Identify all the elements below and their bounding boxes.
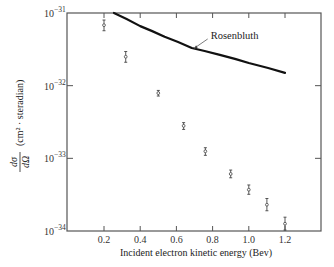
y-tick-exponent: −31: [54, 5, 66, 14]
y-axis: 10−3410−3310−3210−31: [44, 5, 321, 237]
rosenbluth-line: [114, 13, 285, 73]
y-tick-exponent: −33: [54, 150, 66, 159]
x-tick-label: 0.2: [98, 234, 111, 245]
data-point: [284, 217, 287, 230]
data-point: [265, 199, 268, 211]
point-marker: [182, 124, 185, 127]
y-tick-exponent: −34: [54, 223, 66, 232]
y-tick-label: 10−31: [44, 5, 66, 19]
point-marker: [229, 173, 232, 176]
data-point: [229, 170, 232, 178]
data-point: [157, 90, 160, 96]
x-tick-label: 1.2: [279, 234, 292, 245]
point-marker: [284, 222, 287, 225]
y-tick-exponent: −32: [54, 78, 66, 87]
data-point: [247, 185, 250, 194]
y-axis-title: dσ dΩ (cm² · steradian): [8, 80, 31, 172]
y-tick-label: 10−33: [44, 150, 66, 164]
y-label-denominator: dΩ: [20, 156, 31, 168]
point-marker: [204, 150, 207, 153]
y-label-units: (cm² · steradian): [14, 80, 26, 146]
point-marker: [157, 92, 160, 95]
rosenbluth-curve: [114, 13, 285, 73]
data-point: [103, 20, 106, 31]
x-tick-label: 0.6: [170, 234, 183, 245]
rosenbluth-annotation: Rosenbluth: [194, 30, 260, 49]
x-axis-title: Incident electron kinetic energy (Bev): [120, 247, 272, 259]
measured-data-points: [103, 20, 287, 230]
x-tick-label: 0.8: [206, 234, 219, 245]
x-tick-label: 1.0: [243, 234, 256, 245]
y-tick-label: 10−34: [44, 223, 66, 237]
point-marker: [247, 188, 250, 191]
point-marker: [124, 55, 127, 58]
y-label-numerator: dσ: [8, 156, 19, 167]
data-point: [204, 148, 207, 156]
point-marker: [103, 24, 106, 27]
data-point: [182, 123, 185, 130]
annotation-label: Rosenbluth: [211, 30, 260, 41]
x-tick-label: 0.4: [134, 234, 147, 245]
data-point: [124, 52, 127, 63]
cross-section-chart: 0.20.40.60.81.01.2 10−3410−3310−3210−31 …: [0, 0, 334, 267]
plot-frame: [67, 13, 321, 231]
point-marker: [266, 203, 269, 206]
y-tick-label: 10−32: [44, 78, 66, 92]
